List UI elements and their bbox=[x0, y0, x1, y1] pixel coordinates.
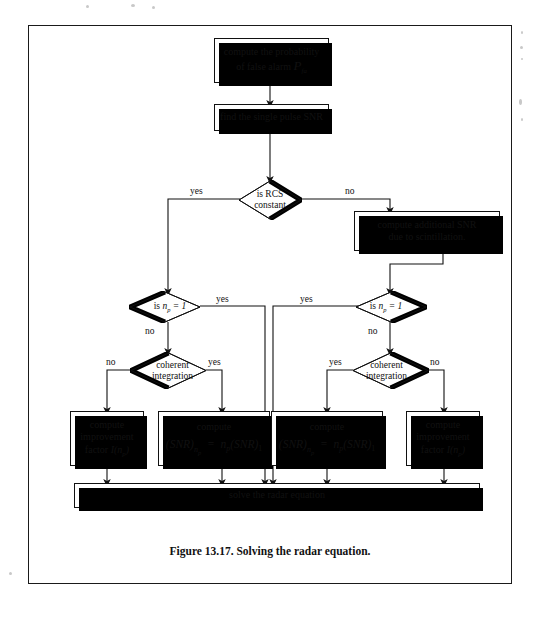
edge-label-rcs-yes: yes bbox=[190, 186, 203, 196]
diamond-shape bbox=[352, 352, 429, 389]
edge-label-coh-left-yes: yes bbox=[208, 357, 221, 367]
diamond-shape bbox=[355, 291, 427, 323]
node-text-line1: compute the probability bbox=[224, 46, 320, 57]
node-coherent-integration-left[interactable]: coherent integration bbox=[130, 352, 207, 389]
node-text-line1: compute bbox=[310, 421, 344, 432]
diamond-shape bbox=[129, 291, 201, 323]
node-text-line3: factor I(np) bbox=[85, 444, 129, 455]
node-text-line1: compute additional SNR bbox=[378, 219, 477, 230]
edge-label-np-left-yes: yes bbox=[216, 294, 229, 304]
node-text-line3: factor I(np) bbox=[421, 444, 465, 455]
node-equation: (SNR)np = np(SNR)1 bbox=[279, 437, 375, 456]
flowchart-connectors bbox=[0, 0, 540, 617]
node-solve-radar-equation[interactable]: solve the radar equation bbox=[74, 483, 480, 508]
node-text: solve the radar equation bbox=[225, 489, 329, 502]
node-text: find the single pulse SNR bbox=[216, 111, 327, 124]
node-compute-snr-np-left[interactable]: compute (SNR)np = np(SNR)1 bbox=[158, 411, 270, 466]
node-compute-additional-snr[interactable]: compute additional SNR due to scintillat… bbox=[354, 211, 500, 251]
edge-label-coh-right-yes: yes bbox=[329, 357, 342, 367]
node-text-line1: compute bbox=[90, 419, 124, 430]
edge-label-np-right-yes: yes bbox=[300, 294, 313, 304]
node-is-np-equal-1-right[interactable]: is np = 1 bbox=[355, 291, 427, 323]
node-text-line2: improvement bbox=[80, 431, 133, 442]
node-compute-snr-np-right[interactable]: compute (SNR)np = np(SNR)1 bbox=[271, 411, 383, 466]
node-compute-false-alarm-probability[interactable]: compute the probability of false alarm P… bbox=[214, 38, 329, 83]
node-equation: (SNR)np = np(SNR)1 bbox=[166, 437, 262, 456]
node-is-np-equal-1-left[interactable]: is np = 1 bbox=[129, 291, 201, 323]
diamond-shape bbox=[130, 352, 207, 389]
edge-label-coh-right-no: no bbox=[430, 357, 440, 367]
node-find-single-pulse-snr[interactable]: find the single pulse SNR bbox=[214, 104, 329, 131]
node-coherent-integration-right[interactable]: coherent integration bbox=[352, 352, 429, 389]
node-compute-improvement-factor-right[interactable]: compute improvement factor I(np) bbox=[406, 411, 480, 466]
edge-label-coh-left-no: no bbox=[106, 357, 116, 367]
node-text-line2: due to scintillation. bbox=[389, 231, 466, 242]
diamond-shape bbox=[238, 180, 302, 220]
node-text-line2: improvement bbox=[416, 431, 469, 442]
node-text-line1: compute bbox=[426, 419, 460, 430]
figure-caption: Figure 13.17. Solving the radar equation… bbox=[28, 545, 512, 557]
edge-label-np-left-no: no bbox=[145, 326, 155, 336]
edge-label-np-right-no: no bbox=[368, 326, 378, 336]
node-text-line1: compute bbox=[197, 421, 231, 432]
node-is-rcs-constant[interactable]: is RCS constant bbox=[238, 180, 302, 220]
node-compute-improvement-factor-left[interactable]: compute improvement factor I(np) bbox=[70, 411, 144, 466]
edge-label-rcs-no: no bbox=[345, 186, 355, 196]
node-text-line2: of false alarm Pfa bbox=[236, 61, 307, 72]
